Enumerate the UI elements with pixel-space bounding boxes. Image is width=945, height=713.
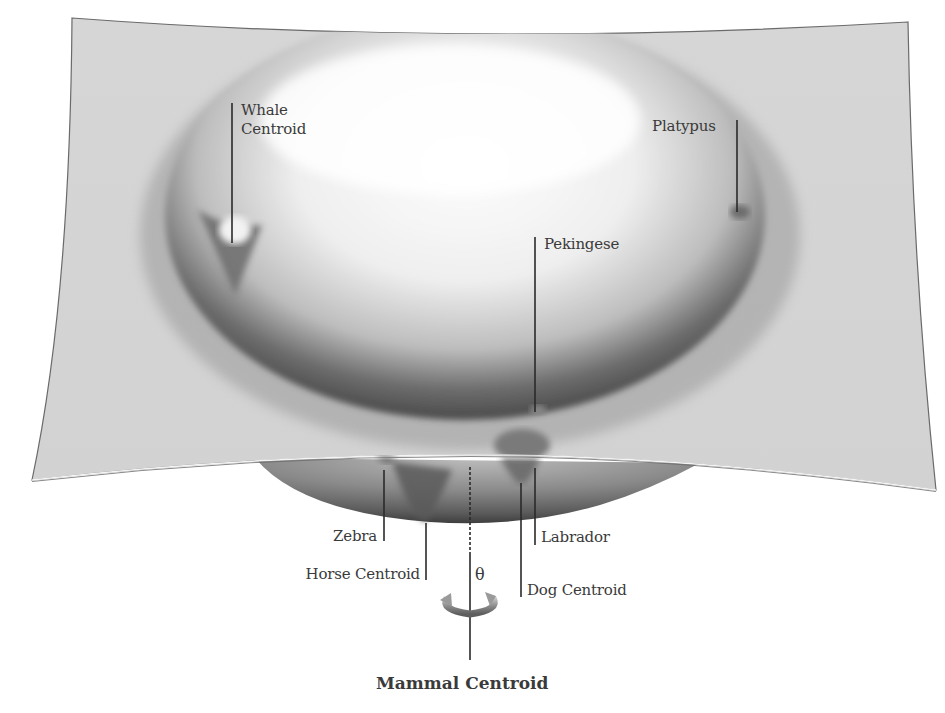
bowl-underside (255, 458, 700, 523)
horse-centroid-label: Horse Centroid (272, 565, 420, 584)
whale-centroid-label: Whale Centroid (241, 101, 306, 139)
dog-centroid-label: Dog Centroid (527, 581, 627, 600)
embedding-surface-diagram: Whale Centroid Platypus Pekingese Zebra … (0, 0, 945, 713)
mammal-centroid-title: Mammal Centroid (376, 673, 548, 693)
surface-illustration (0, 0, 945, 713)
labrador-label: Labrador (541, 528, 610, 547)
zebra-label: Zebra (323, 527, 377, 546)
theta-rotation-label: θ (475, 565, 485, 584)
platypus-label: Platypus (652, 117, 716, 136)
pekingese-label: Pekingese (544, 235, 619, 254)
rotation-arrow-icon (440, 592, 496, 614)
